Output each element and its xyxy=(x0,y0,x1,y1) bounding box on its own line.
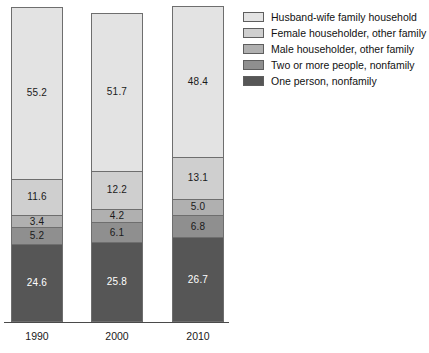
bar-segment[interactable]: 5.0 xyxy=(173,200,223,217)
bar-segment-value-label: 25.8 xyxy=(107,277,127,287)
bar-segment[interactable]: 25.8 xyxy=(92,243,142,321)
legend-swatch-icon xyxy=(243,12,264,22)
bar-segment[interactable]: 48.4 xyxy=(173,7,223,158)
bar-segment[interactable]: 26.7 xyxy=(173,238,223,321)
legend-item-male-householder-other-family[interactable]: Male householder, other family xyxy=(243,41,426,57)
legend-swatch-icon xyxy=(243,76,264,86)
bar-1990[interactable]: 55.211.63.45.224.6 xyxy=(11,7,63,322)
bar-segment-value-label: 5.0 xyxy=(191,202,206,212)
bar-segment[interactable]: 12.2 xyxy=(92,172,142,210)
bar-segment-value-label: 5.2 xyxy=(30,231,45,241)
legend-item-two-or-more-people-nonfamily[interactable]: Two or more people, nonfamily xyxy=(243,57,426,73)
bar-segment[interactable]: 5.2 xyxy=(12,228,62,245)
bar-segment[interactable]: 24.6 xyxy=(12,245,62,321)
legend-item-one-person-nonfamily[interactable]: One person, nonfamily xyxy=(243,73,426,89)
bar-segment-value-label: 48.4 xyxy=(188,77,208,87)
bar-segment-value-label: 12.2 xyxy=(107,185,127,195)
plot-area: 55.211.63.45.224.6 51.712.24.26.125.8 48… xyxy=(0,0,240,330)
legend-item-husband-wife-family-household[interactable]: Husband-wife family household xyxy=(243,9,426,25)
bar-segment-value-label: 4.2 xyxy=(110,211,125,221)
bar-segment-value-label: 24.6 xyxy=(27,278,47,288)
legend-swatch-icon xyxy=(243,44,264,54)
bar-segment[interactable]: 6.8 xyxy=(173,216,223,238)
bar-segment[interactable]: 11.6 xyxy=(12,180,62,217)
legend-swatch-icon xyxy=(243,60,264,70)
bar-segment[interactable]: 6.1 xyxy=(92,223,142,242)
x-axis-tick-1990: 1990 xyxy=(11,330,63,342)
stacked-bar-chart: 55.211.63.45.224.6 51.712.24.26.125.8 48… xyxy=(0,0,429,353)
bar-segment[interactable]: 51.7 xyxy=(92,14,142,172)
x-axis-baseline xyxy=(4,322,229,323)
legend-swatch-icon xyxy=(243,28,264,38)
bar-segment-value-label: 3.4 xyxy=(30,217,45,227)
bar-segment-value-label: 55.2 xyxy=(27,88,47,98)
legend-item-label: Male householder, other family xyxy=(271,44,414,55)
legend-item-label: Female householder, other family xyxy=(271,28,426,39)
bar-segment-value-label: 11.6 xyxy=(27,192,47,202)
bar-segment-value-label: 6.8 xyxy=(191,222,206,232)
bar-segment-value-label: 6.1 xyxy=(110,228,125,238)
bar-segment[interactable]: 55.2 xyxy=(12,8,62,180)
bar-segment-value-label: 26.7 xyxy=(188,275,208,285)
bar-segment-value-label: 51.7 xyxy=(107,87,127,97)
legend-item-label: Two or more people, nonfamily xyxy=(271,60,415,71)
x-axis-tick-2010: 2010 xyxy=(172,330,224,342)
x-axis-tick-2000: 2000 xyxy=(91,330,143,342)
chart-legend: Husband-wife family household Female hou… xyxy=(243,9,426,89)
legend-item-label: One person, nonfamily xyxy=(271,76,377,87)
bar-2010[interactable]: 48.413.15.06.826.7 xyxy=(172,6,224,322)
bar-segment-value-label: 13.1 xyxy=(188,173,208,183)
bar-2000[interactable]: 51.712.24.26.125.8 xyxy=(91,13,143,322)
bar-segment[interactable]: 13.1 xyxy=(173,158,223,200)
bar-segment[interactable]: 3.4 xyxy=(12,216,62,228)
bar-segment[interactable]: 4.2 xyxy=(92,210,142,224)
legend-item-label: Husband-wife family household xyxy=(271,12,417,23)
legend-item-female-householder-other-family[interactable]: Female householder, other family xyxy=(243,25,426,41)
